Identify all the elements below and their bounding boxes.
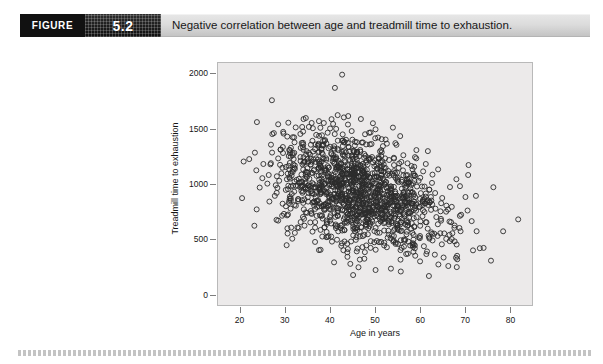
scatter-point	[393, 141, 398, 146]
scatter-point	[280, 201, 285, 206]
scatter-point	[254, 168, 259, 173]
y-tick-mark	[210, 239, 216, 240]
scatter-point	[286, 120, 291, 125]
figure-number-text: 5.2	[113, 19, 134, 33]
x-tick-label: 50	[360, 316, 390, 325]
scatter-point	[501, 229, 506, 234]
scatter-point	[293, 125, 298, 130]
scatter-point	[316, 119, 321, 124]
y-axis-label-text: Treadmill time to exhaustion	[171, 122, 180, 234]
scatter-point	[370, 121, 375, 126]
scatter-point	[349, 129, 354, 134]
scatter-point	[488, 258, 493, 263]
scatter-point	[440, 195, 445, 200]
scatter-point	[276, 122, 281, 127]
figure-label-box: FIGURE	[20, 14, 85, 37]
scatter-point	[334, 126, 339, 131]
scatter-point	[418, 259, 423, 264]
scatter-point	[241, 159, 246, 164]
x-tick-label: 30	[270, 316, 300, 325]
scatter-point	[388, 266, 393, 271]
scatter-point	[313, 225, 318, 230]
x-tick-mark	[465, 307, 466, 313]
scatter-point	[426, 273, 431, 278]
scatter-point	[433, 191, 438, 196]
scatter-point	[318, 125, 323, 130]
scatter-point	[441, 255, 446, 260]
scatter-point	[421, 244, 426, 249]
scatter-point	[447, 185, 452, 190]
scatter-point	[457, 213, 462, 218]
scatter-point	[430, 180, 435, 185]
scatter-point	[474, 229, 479, 234]
scatter-point	[469, 219, 474, 224]
scatter-point	[454, 265, 459, 270]
x-tick-mark	[330, 307, 331, 313]
scatter-point	[268, 142, 273, 147]
scatter-point	[398, 269, 403, 274]
scatter-point	[414, 156, 419, 161]
scatter-point	[414, 184, 419, 189]
scatter-point	[465, 208, 470, 213]
x-tick-mark	[420, 307, 421, 313]
scatter-point	[455, 257, 460, 262]
scatter-point	[285, 134, 290, 139]
scatter-point	[267, 199, 272, 204]
scatter-point	[340, 132, 345, 137]
scatter-point	[377, 149, 382, 154]
scatter-point	[439, 201, 444, 206]
x-tick-label: 40	[315, 316, 345, 325]
scatter-point	[284, 243, 289, 248]
scatter-point	[516, 217, 521, 222]
scatter-point	[446, 264, 451, 269]
figure-number-box: 5.2	[85, 14, 161, 37]
scatter-point	[466, 173, 471, 178]
scatter-point	[351, 273, 356, 278]
scatter-point	[358, 117, 363, 122]
scatter-point	[328, 126, 333, 131]
scatter-points	[218, 63, 533, 306]
scatter-point	[457, 184, 462, 189]
scatter-point	[432, 252, 437, 257]
scatter-point	[373, 247, 378, 252]
x-tick-mark	[375, 307, 376, 313]
scatter-point	[466, 163, 471, 168]
scatter-point	[491, 185, 496, 190]
scatter-point	[436, 167, 441, 172]
x-tick-label: 20	[225, 316, 255, 325]
scatter-point	[308, 220, 313, 225]
scatter-point	[391, 163, 396, 168]
x-tick-label: 60	[405, 316, 435, 325]
scatter-point	[329, 239, 334, 244]
scatter-point	[345, 122, 350, 127]
y-tick-label: 1500	[189, 125, 208, 134]
scatter-point	[454, 177, 459, 182]
scatter-point	[398, 257, 403, 262]
scatter-point	[260, 176, 265, 181]
scatter-point	[365, 232, 370, 237]
scatter-point	[471, 248, 476, 253]
scatter-point	[254, 120, 259, 125]
scatter-point	[274, 217, 279, 222]
x-tick-mark	[510, 307, 511, 313]
scatter-point	[257, 185, 262, 190]
scatter-point	[362, 250, 367, 255]
scatter-point	[265, 181, 270, 186]
scatter-point	[373, 127, 378, 132]
scatter-point	[436, 262, 441, 267]
scatter-point	[335, 237, 340, 242]
scatter-point	[349, 239, 354, 244]
scatter-point	[368, 245, 373, 250]
scatter-point	[398, 134, 403, 139]
scatter-point	[271, 131, 276, 136]
scatter-point	[414, 148, 419, 153]
scatter-point	[309, 120, 314, 125]
scatter-point	[314, 213, 319, 218]
figure-caption-text: Negative correlation between age and tre…	[172, 20, 512, 32]
scatter-point	[423, 161, 428, 166]
scatter-point-outlier	[340, 72, 345, 77]
scatter-point	[331, 121, 336, 126]
scatter-point	[292, 230, 297, 235]
scatter-point	[390, 125, 395, 130]
y-tick-mark	[210, 184, 216, 185]
